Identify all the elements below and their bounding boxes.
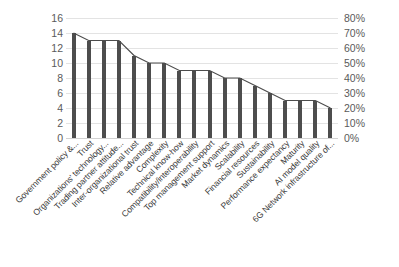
y-tick-right-20%: 20% xyxy=(344,103,365,114)
y-tick-right-80%: 80% xyxy=(344,13,365,24)
bar-slot xyxy=(81,18,96,138)
bar xyxy=(253,86,257,139)
bar xyxy=(298,101,302,139)
y-tick-right-70%: 70% xyxy=(344,28,365,39)
bar-slot xyxy=(308,18,323,138)
y-tick-right-60%: 60% xyxy=(344,43,365,54)
y-tick-left-4: 4 xyxy=(57,103,63,114)
bar-slot xyxy=(111,18,126,138)
bar-slot xyxy=(96,18,111,138)
bar xyxy=(238,78,242,138)
bar xyxy=(87,41,91,139)
bar-slot xyxy=(247,18,262,138)
plot-area xyxy=(66,18,338,138)
bar xyxy=(177,71,181,139)
bar-slot xyxy=(126,18,141,138)
x-axis-category-labels: Government policy &...TrustOrganizations… xyxy=(66,139,338,267)
bar xyxy=(268,93,272,138)
bar xyxy=(208,71,212,139)
bar xyxy=(162,63,166,138)
y-tick-left-0: 0 xyxy=(57,133,63,144)
y-tick-left-14: 14 xyxy=(51,28,63,39)
bar-slot xyxy=(232,18,247,138)
bar xyxy=(223,78,227,138)
y-axis-left: 0246810121416 xyxy=(40,18,63,138)
bar-slot xyxy=(278,18,293,138)
y-tick-right-40%: 40% xyxy=(344,73,365,84)
bar-slot xyxy=(172,18,187,138)
bar xyxy=(283,101,287,139)
bar-slot xyxy=(262,18,277,138)
bar xyxy=(117,41,121,139)
y-tick-right-10%: 10% xyxy=(344,118,365,129)
y-tick-left-2: 2 xyxy=(57,118,63,129)
bar-series xyxy=(66,18,338,138)
bar-chart: 0246810121416 0%10%20%30%40%50%60%70%80%… xyxy=(0,0,399,267)
y-tick-left-16: 16 xyxy=(51,13,63,24)
bar-slot xyxy=(323,18,338,138)
y-tick-right-30%: 30% xyxy=(344,88,365,99)
bar xyxy=(72,33,76,138)
bar-slot xyxy=(217,18,232,138)
y-tick-left-12: 12 xyxy=(51,43,63,54)
bar xyxy=(328,108,332,138)
y-tick-left-8: 8 xyxy=(57,73,63,84)
bar-slot xyxy=(66,18,81,138)
bar-slot xyxy=(202,18,217,138)
bar xyxy=(147,63,151,138)
y-tick-left-6: 6 xyxy=(57,88,63,99)
bar xyxy=(132,56,136,139)
bar-slot xyxy=(187,18,202,138)
bar-slot xyxy=(142,18,157,138)
y-tick-right-50%: 50% xyxy=(344,58,365,69)
y-tick-left-10: 10 xyxy=(51,58,63,69)
bar xyxy=(102,41,106,139)
bar-slot xyxy=(157,18,172,138)
bar xyxy=(313,101,317,139)
y-axis-right: 0%10%20%30%40%50%60%70%80% xyxy=(344,18,384,138)
y-tick-right-0%: 0% xyxy=(344,133,359,144)
bar xyxy=(192,71,196,139)
bar-slot xyxy=(293,18,308,138)
